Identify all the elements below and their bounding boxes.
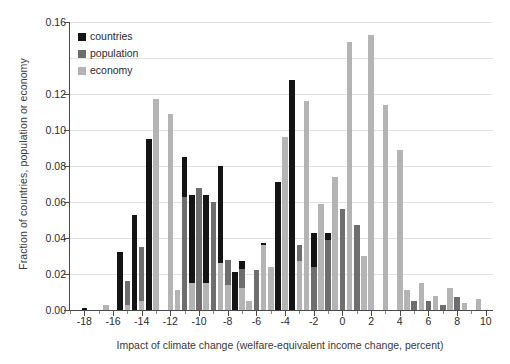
bar-economy [404,290,410,310]
x-tick-mark [199,311,200,316]
bar-economy [189,283,195,310]
bar-countries [146,139,152,310]
x-tick-mark [84,311,85,316]
x-tick-minor-mark [414,311,415,314]
bar-economy [175,290,181,310]
legend-label: countries [90,31,133,42]
y-tick-label: 0.08 [32,160,66,172]
legend-swatch-icon [78,50,86,58]
x-tick-minor-mark [242,311,243,314]
x-tick-mark [285,311,286,316]
y-tick-label: 0.16 [32,16,66,28]
x-axis-line [69,310,493,311]
legend-label: economy [90,65,133,76]
x-tick-minor-mark [299,311,300,314]
gridline [70,22,493,23]
legend-item-population: population [78,45,198,62]
bar-economy [476,299,482,310]
x-tick-mark [170,311,171,316]
bar-economy [447,288,453,310]
x-tick-minor-mark [471,311,472,314]
x-tick-mark [142,311,143,316]
x-tick-minor-mark [385,311,386,314]
gridline [70,94,493,95]
bar-population [254,270,260,310]
bar-economy [261,245,267,310]
x-tick-mark [314,311,315,316]
bar-economy [462,303,468,310]
x-tick-minor-mark [443,311,444,314]
x-tick-minor-mark [271,311,272,314]
x-tick-minor-mark [99,311,100,314]
bar-population [454,297,460,310]
x-tick-mark [228,311,229,316]
legend-label: population [90,48,138,59]
legend-swatch-icon [78,33,86,41]
bar-economy [168,114,174,310]
legend-item-countries: countries [78,28,198,45]
bar-countries [275,182,281,310]
y-tick-label: 0.04 [32,232,66,244]
x-tick-minor-mark [213,311,214,314]
x-axis-title: Impact of climate change (welfare-equiva… [70,339,490,351]
bar-economy [397,150,403,310]
y-tick-label: 0.10 [32,124,66,136]
bar-countries [289,80,295,310]
x-tick-minor-mark [185,311,186,314]
bar-population [182,197,188,310]
bar-economy [332,177,338,310]
bar-economy [419,283,425,310]
x-tick-mark [113,311,114,316]
x-tick-mark [371,311,372,316]
bar-population [440,305,446,310]
bar-economy [361,256,367,310]
bar-population [211,202,217,310]
bar-economy [225,285,231,310]
x-tick-minor-mark [70,311,71,314]
bar-countries [82,308,88,310]
bar-population [311,267,317,310]
bar-countries [232,272,238,310]
y-tick-label: 0.12 [32,88,66,100]
chart-legend: countriespopulationeconomy [78,28,198,79]
bar-economy [125,305,131,310]
legend-item-economy: economy [78,62,198,79]
bar-economy [268,267,274,310]
bar-economy [282,137,288,310]
bar-economy [153,99,159,310]
y-axis-tick-labels: 0.000.020.040.060.080.100.120.16 [28,0,66,364]
bar-economy [318,204,324,310]
y-tick-label: 0.00 [32,304,66,316]
x-tick-label: 10 [466,315,506,327]
y-tick-label: 0.02 [32,268,66,280]
chart-figure: Fraction of countries, population or eco… [0,0,510,364]
legend-swatch-icon [78,67,86,75]
bar-economy [246,301,252,310]
bar-population [426,301,432,310]
bar-population [354,225,360,310]
bar-population [411,301,417,310]
bar-countries [132,215,138,310]
x-tick-mark [400,311,401,316]
bar-economy [139,301,145,310]
bar-population [325,240,331,310]
x-tick-mark [486,311,487,316]
bar-economy [239,288,245,310]
bar-economy [218,263,224,310]
x-tick-mark [457,311,458,316]
bar-economy [304,101,310,310]
gridline [70,130,493,131]
bar-countries [117,252,123,310]
x-tick-minor-mark [328,311,329,314]
bar-economy [368,35,374,310]
x-tick-minor-mark [127,311,128,314]
x-tick-mark [256,311,257,316]
bar-economy [203,283,209,310]
bar-economy [297,261,303,310]
x-tick-minor-mark [156,311,157,314]
bar-population [196,188,202,310]
bar-economy [347,42,353,310]
x-tick-mark [428,311,429,316]
x-tick-minor-mark [357,311,358,314]
x-tick-mark [342,311,343,316]
